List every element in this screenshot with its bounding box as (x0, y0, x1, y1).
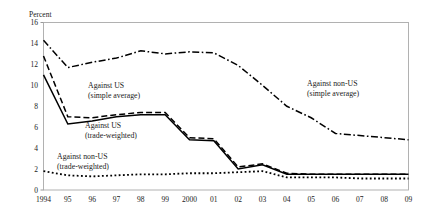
x-tick-label: 95 (64, 195, 72, 204)
chart-container: Percent 0246810121416 199495969798992000… (0, 0, 429, 222)
x-tick-label: 06 (332, 195, 340, 204)
x-tick-label: 04 (283, 195, 291, 204)
x-tick-label: 01 (210, 195, 218, 204)
y-tick-label: 2 (34, 165, 38, 174)
annotation-line-2: (trade-weighted) (85, 131, 137, 140)
annotation-against-non-us-trade-weighted: Against non-US(trade-weighted) (57, 152, 109, 171)
x-tick-label: 1994 (36, 195, 51, 204)
x-tick-label: 96 (88, 195, 96, 204)
chart-background (0, 0, 429, 222)
annotation-line-1: Against non-US (57, 152, 107, 161)
y-tick-label: 12 (31, 60, 39, 69)
annotation-line-1: Against non-US (307, 79, 357, 88)
x-tick-label: 05 (307, 195, 315, 204)
x-tick-label: 03 (259, 195, 267, 204)
annotation-line-1: Against US (88, 81, 124, 90)
x-tick-label: 02 (234, 195, 242, 204)
y-tick-label: 0 (34, 186, 38, 195)
x-tick-label: 09 (405, 195, 413, 204)
x-tick-label: 2000 (182, 195, 197, 204)
line-chart: Percent 0246810121416 199495969798992000… (0, 0, 429, 222)
annotation-against-non-us-simple: Against non-US(simple average) (307, 79, 360, 98)
annotation-line-2: (trade-weighted) (57, 162, 109, 171)
y-tick-label: 16 (31, 18, 39, 27)
annotation-line-2: (simple average) (88, 91, 141, 100)
y-tick-label: 4 (34, 144, 38, 153)
annotation-line-2: (simple average) (307, 89, 360, 98)
x-tick-label: 98 (137, 195, 145, 204)
y-tick-label: 8 (34, 102, 38, 111)
x-tick-label: 97 (113, 195, 121, 204)
annotation-line-1: Against US (85, 121, 121, 130)
y-tick-label: 10 (31, 81, 39, 90)
y-tick-label: 6 (34, 123, 38, 132)
x-tick-label: 99 (161, 195, 169, 204)
y-tick-label: 14 (31, 39, 39, 48)
x-tick-label: 08 (380, 195, 388, 204)
x-tick-label: 07 (356, 195, 364, 204)
